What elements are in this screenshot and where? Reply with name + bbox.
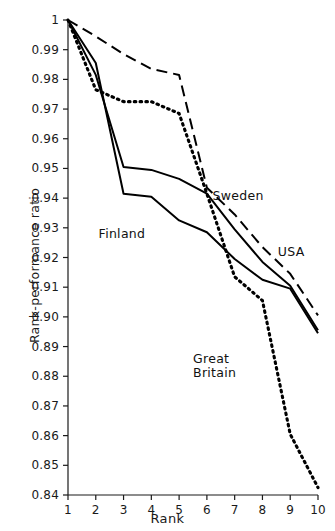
series-line-usa bbox=[68, 20, 318, 315]
series-label-great-britain: Great Britain bbox=[193, 352, 236, 380]
y-axis-title: Rank-performance ratio bbox=[27, 166, 42, 366]
rank-performance-chart: 10.990.980.970.960.950.940.930.920.910.9… bbox=[0, 0, 335, 531]
series-label-sweden: Sweden bbox=[212, 189, 263, 203]
x-axis-ticks bbox=[68, 495, 318, 500]
y-tick-label: 1 bbox=[0, 13, 59, 27]
y-tick-label: 0.86 bbox=[0, 429, 59, 443]
y-tick-label: 0.87 bbox=[0, 399, 59, 413]
series-label-usa: USA bbox=[278, 245, 305, 259]
x-axis-title: Rank bbox=[0, 511, 335, 526]
y-tick-label: 0.85 bbox=[0, 458, 59, 472]
y-tick-label: 0.88 bbox=[0, 369, 59, 383]
y-tick-label: 0.97 bbox=[0, 102, 59, 116]
series-line-finland bbox=[68, 20, 318, 333]
y-tick-label: 0.96 bbox=[0, 132, 59, 146]
series-label-finland: Finland bbox=[99, 227, 146, 241]
y-tick-label: 0.98 bbox=[0, 72, 59, 86]
y-tick-label: 0.84 bbox=[0, 488, 59, 502]
series-line-sweden bbox=[68, 20, 318, 330]
y-axis-ticks bbox=[63, 20, 68, 495]
y-tick-label: 0.99 bbox=[0, 43, 59, 57]
